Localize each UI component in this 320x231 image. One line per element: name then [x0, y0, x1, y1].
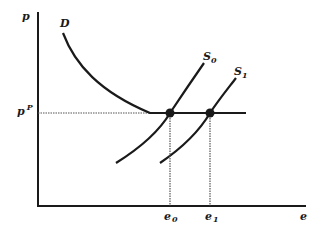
e1-label: e1	[205, 210, 219, 224]
diagram-canvas: p e pP D S0 S1 e0 e1	[0, 0, 320, 231]
equilibrium-point-e0	[166, 109, 175, 118]
s0-label: S0	[203, 50, 217, 65]
demand-label: D	[59, 17, 70, 30]
e1-label-sub: 1	[213, 214, 219, 224]
e0-label-sub: 0	[172, 214, 178, 224]
e1-label-base: e	[205, 210, 212, 223]
price-level-label-base: p	[17, 105, 25, 118]
price-level-label-sup: P	[26, 102, 34, 112]
supply-curve-s1	[160, 78, 236, 163]
s0-label-base: S	[203, 50, 211, 63]
y-axis-label: p	[22, 10, 30, 23]
s1-label-base: S	[234, 65, 242, 78]
s1-label-sub: 1	[242, 70, 248, 80]
price-level-label: pP	[17, 102, 34, 118]
e0-label-base: e	[164, 210, 171, 223]
s0-label-sub: 0	[211, 55, 217, 65]
x-axis-label: e	[300, 210, 307, 223]
e0-label: e0	[164, 210, 178, 224]
s1-label: S1	[234, 65, 248, 80]
equilibrium-point-e1	[206, 109, 215, 118]
